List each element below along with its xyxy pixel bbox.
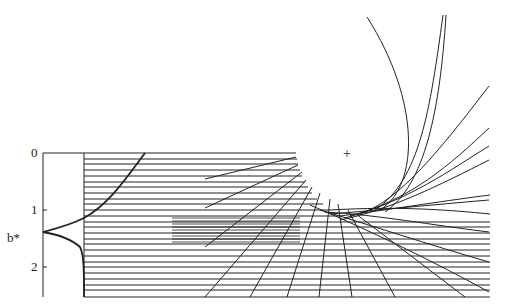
horizontal-rays	[84, 153, 490, 297]
profile-curve	[43, 153, 145, 297]
ray-diagram	[0, 0, 505, 307]
